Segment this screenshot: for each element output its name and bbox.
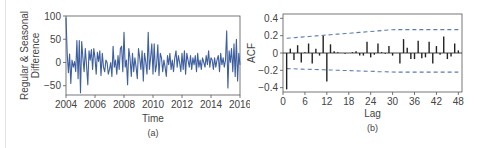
x-tick-label: 30 — [387, 96, 399, 107]
x-tick-label: 6 — [302, 96, 308, 107]
x-axis-label: Lag — [364, 108, 381, 119]
acf-chart: 0.40.20−0.2−0.40612182430364248LagACF(b) — [0, 0, 478, 148]
y-tick-label: −0.4 — [258, 82, 278, 93]
y-tick-label: 0.4 — [264, 13, 278, 24]
x-tick-label: 18 — [343, 96, 355, 107]
x-tick-label: 36 — [409, 96, 421, 107]
y-tick-label: 0 — [272, 48, 278, 59]
lower-confidence-band — [287, 69, 459, 73]
upper-confidence-band — [287, 30, 459, 39]
x-tick-label: 42 — [431, 96, 443, 107]
y-tick-label: 0.2 — [264, 30, 278, 41]
x-tick-label: 24 — [365, 96, 377, 107]
x-tick-label: 0 — [280, 96, 286, 107]
y-axis-label-text: ACF — [246, 43, 257, 63]
y-tick-label: −0.2 — [258, 65, 278, 76]
panel-caption: (b) — [367, 123, 378, 133]
x-tick-label: 48 — [453, 96, 465, 107]
x-tick-label: 12 — [321, 96, 333, 107]
y-axis-label: ACF — [246, 43, 257, 63]
